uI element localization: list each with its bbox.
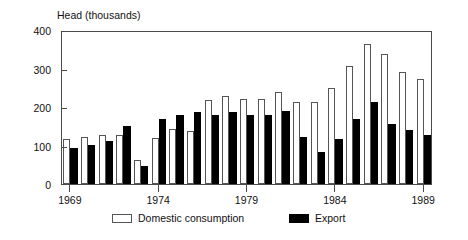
bar-export-1988 (406, 130, 413, 184)
bar-domestic-1979 (240, 99, 247, 184)
x-axis-tick-mark (334, 185, 335, 192)
bar-export-1985 (353, 119, 360, 184)
bar-domestic-1971 (99, 135, 106, 184)
legend-label-export: Export (315, 212, 345, 224)
bar-domestic-1983 (311, 102, 318, 184)
bar-domestic-1976 (187, 131, 194, 184)
bar-export-1972 (123, 126, 130, 184)
bar-export-1984 (335, 139, 342, 184)
bar-domestic-1982 (293, 102, 300, 184)
bar-export-1977 (212, 115, 219, 184)
bar-domestic-1977 (205, 100, 212, 184)
bar-export-1989 (424, 135, 431, 184)
bar-export-1986 (371, 102, 378, 184)
bar-domestic-1986 (364, 44, 371, 184)
bar-domestic-1972 (116, 135, 123, 184)
legend-label-domestic: Domestic consumption (138, 212, 244, 224)
x-axis-tick-mark (69, 185, 70, 192)
x-axis-tick-mark (246, 185, 247, 192)
bar-export-1983 (318, 152, 325, 184)
legend-item-domestic-consumption: Domestic consumption (112, 212, 244, 224)
y-axis-tick-mark (61, 108, 67, 109)
bar-export-1970 (88, 145, 95, 184)
bar-domestic-1988 (399, 72, 406, 184)
bar-export-1975 (176, 115, 183, 184)
x-axis-tick-label: 1989 (411, 194, 434, 206)
y-axis-tick-mark (61, 70, 67, 71)
bar-export-1981 (282, 111, 289, 184)
x-axis-tick-label: 1979 (235, 194, 258, 206)
bar-export-1974 (159, 119, 166, 184)
bar-domestic-1974 (152, 138, 159, 184)
y-axis-tick-mark (61, 147, 67, 148)
bar-export-1979 (247, 115, 254, 184)
legend-swatch-domestic-icon (112, 214, 132, 223)
chart-figure: Head (thousands) 4003002001000 196919741… (0, 0, 468, 240)
x-axis-tick-mark (158, 185, 159, 192)
bar-domestic-1975 (169, 129, 176, 184)
bar-domestic-1984 (328, 88, 335, 184)
bar-domestic-1980 (258, 99, 265, 184)
x-axis-tick-label: 1974 (146, 194, 169, 206)
y-axis-tick-label: 100 (33, 142, 51, 152)
bar-export-1982 (300, 137, 307, 184)
y-axis-tick-label: 400 (33, 26, 51, 36)
bar-export-1971 (106, 141, 113, 185)
bar-export-1973 (141, 166, 148, 184)
bar-export-1969 (70, 148, 77, 184)
chart-legend: Domestic consumption Export (0, 212, 468, 232)
chart-title: Head (thousands) (57, 9, 140, 21)
bars-container (62, 32, 431, 184)
bar-domestic-1978 (222, 96, 229, 184)
bar-domestic-1970 (81, 137, 88, 184)
y-axis-tick-label: 0 (45, 180, 51, 190)
plot-area (61, 31, 432, 185)
x-axis-tick-label: 1984 (323, 194, 346, 206)
legend-swatch-export-icon (289, 214, 309, 223)
legend-item-export: Export (289, 212, 345, 224)
bar-domestic-1989 (417, 79, 424, 184)
y-axis-tick-label: 200 (33, 103, 51, 113)
bar-export-1987 (388, 124, 395, 184)
bar-domestic-1985 (346, 66, 353, 184)
bar-export-1978 (229, 112, 236, 184)
bar-domestic-1981 (275, 92, 282, 184)
x-axis-tick-mark (423, 185, 424, 192)
y-axis: 4003002001000 (0, 0, 58, 240)
y-axis-tick-label: 300 (33, 65, 51, 75)
bar-export-1976 (194, 112, 201, 184)
x-axis-tick-label: 1969 (58, 194, 81, 206)
bar-export-1980 (265, 115, 272, 184)
bar-domestic-1973 (134, 160, 141, 184)
bar-domestic-1987 (381, 54, 388, 184)
